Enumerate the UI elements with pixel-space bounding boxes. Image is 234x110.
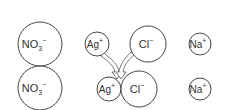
ion-no3-top: NO3− [18, 22, 62, 66]
ion-no3-bottom: NO3− [18, 66, 62, 110]
ion-ag-bottom: Ag+ [97, 77, 121, 101]
ion-na-top: Na+ [189, 33, 211, 55]
ion-na-bottom: Na+ [189, 78, 211, 100]
ion-diagram: NO3− Ag+ Cl− Na+ NO3− [0, 0, 234, 110]
ion-cl-top: Cl− [130, 26, 166, 62]
ion-ag-top: Ag+ [85, 32, 109, 56]
ion-cl-bottom: Cl− [121, 71, 157, 107]
